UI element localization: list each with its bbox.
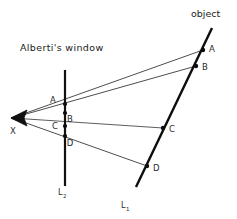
- object-line-label: L 1: [121, 201, 130, 212]
- object-point-B-label: B: [202, 62, 208, 72]
- object-point-D-label: D: [153, 163, 160, 173]
- diagram-canvas: A B C D A B C D X L 2 L 1 Alberti's wind…: [0, 0, 237, 219]
- object-line-L1: [136, 28, 212, 187]
- object-point-C-dot: [161, 126, 165, 130]
- window-point-A-dot: [63, 102, 67, 106]
- window-point-C-label: C: [52, 121, 58, 131]
- object-point-A-label: A: [209, 44, 215, 54]
- object-point-D-dot: [145, 164, 149, 168]
- ray-to-B-icon: [12, 66, 196, 118]
- window-point-B-label: B: [67, 114, 73, 124]
- window-line-subscript: 2: [63, 193, 67, 199]
- object-point-A-dot: [201, 48, 205, 52]
- window-point-D-label: D: [67, 138, 74, 148]
- viewpoint-label: X: [10, 126, 16, 136]
- geometry-diagram: A B C D A B C D X L 2 L 1 Alberti's wind…: [0, 0, 237, 219]
- object-line-subscript: 1: [126, 206, 130, 212]
- object-caption: object: [191, 8, 221, 19]
- viewpoint-arrow-icon: [11, 110, 27, 126]
- window-point-C-dot: [63, 124, 67, 128]
- window-point-A-label: A: [50, 95, 56, 105]
- albertis-window-caption: Alberti's window: [20, 42, 104, 53]
- window-line-label: L 2: [58, 188, 67, 199]
- object-point-B-dot: [194, 64, 198, 68]
- object-point-C-label: C: [169, 124, 175, 134]
